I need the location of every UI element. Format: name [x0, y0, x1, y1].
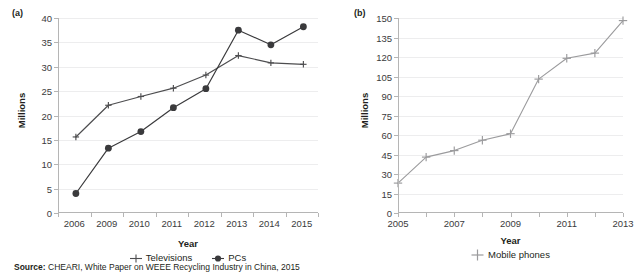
- data-point-marker[interactable]: [300, 61, 306, 67]
- x-tick-mark: [156, 213, 157, 217]
- x-tick-label: 2005: [387, 218, 408, 229]
- series-layer: [58, 18, 318, 213]
- legend-item-mobile-phones[interactable]: Mobile phones: [471, 249, 550, 261]
- x-tick-label: 2015: [291, 218, 312, 229]
- x-tick-mark: [398, 213, 399, 217]
- panel-b-y-axis-title: Millions: [359, 81, 370, 141]
- y-tick-label: 0: [387, 208, 392, 219]
- source-prefix: Source:: [14, 262, 46, 272]
- panel-a-plot-area: 0510152025303540200620092010201120122013…: [58, 18, 318, 213]
- x-tick-mark: [253, 213, 254, 217]
- data-point-marker[interactable]: [170, 104, 177, 111]
- y-tick-label: 30: [381, 169, 392, 180]
- x-tick-mark: [318, 213, 319, 217]
- y-tick-label: 90: [381, 91, 392, 102]
- x-tick-label: 2006: [64, 218, 85, 229]
- y-tick-label: 0: [47, 208, 52, 219]
- panel-b-y-axis-line: [398, 18, 399, 213]
- data-point-marker[interactable]: [506, 130, 514, 138]
- y-tick-label: 45: [381, 149, 392, 160]
- x-tick-mark: [58, 213, 59, 217]
- panel-a: (a) Millions 051015202530354020062009201…: [0, 0, 340, 271]
- panel-a-letter: (a): [12, 8, 23, 18]
- x-tick-label: 2011: [557, 218, 577, 229]
- data-point-marker[interactable]: [267, 41, 274, 48]
- x-tick-label: 2013: [612, 218, 633, 229]
- panel-b-x-axis-line: [398, 212, 623, 213]
- x-tick-mark: [482, 213, 483, 217]
- x-tick-label: 2007: [444, 218, 465, 229]
- panel-a-y-axis-line: [58, 18, 59, 213]
- x-tick-mark: [511, 213, 512, 217]
- data-point-marker[interactable]: [203, 72, 209, 78]
- x-tick-label: 2011: [162, 218, 182, 229]
- x-tick-label: 2009: [96, 218, 117, 229]
- data-point-marker[interactable]: [563, 54, 571, 62]
- y-tick-label: 105: [376, 71, 392, 82]
- y-tick-label: 10: [41, 159, 52, 170]
- x-tick-mark: [623, 213, 624, 217]
- y-tick-label: 15: [381, 188, 392, 199]
- y-tick-label: 25: [41, 86, 52, 97]
- x-tick-mark: [567, 213, 568, 217]
- x-tick-label: 2014: [259, 218, 280, 229]
- x-tick-mark: [123, 213, 124, 217]
- panel-a-x-axis-line: [58, 212, 318, 213]
- data-point-marker[interactable]: [235, 52, 241, 58]
- panel-a-x-axis-title: Year: [58, 238, 318, 249]
- series-line-mobile-phones: [398, 21, 623, 184]
- panel-b-letter: (b): [354, 8, 366, 18]
- y-tick-label: 120: [376, 52, 392, 63]
- x-tick-mark: [426, 213, 427, 217]
- y-tick-label: 40: [41, 13, 52, 24]
- panel-b-plot-area: 0153045607590105120135150200520072009201…: [398, 18, 623, 213]
- x-tick-label: 2010: [129, 218, 150, 229]
- x-tick-label: 2013: [226, 218, 247, 229]
- panel-a-y-axis-title: Millions: [16, 81, 27, 141]
- y-tick-label: 75: [381, 110, 392, 121]
- panel-b: (b) Millions 015304560759010512013515020…: [340, 0, 635, 271]
- data-point-marker[interactable]: [137, 128, 144, 135]
- data-point-marker[interactable]: [170, 85, 176, 91]
- source-text: CHEARI, White Paper on WEEE Recycling In…: [48, 262, 300, 272]
- y-tick-label: 135: [376, 32, 392, 43]
- y-tick-label: 20: [41, 110, 52, 121]
- series-layer: [398, 18, 623, 213]
- data-point-marker[interactable]: [534, 75, 542, 83]
- legend-label-mobile-phones: Mobile phones: [488, 250, 550, 260]
- y-tick-label: 35: [41, 37, 52, 48]
- x-tick-mark: [221, 213, 222, 217]
- series-line-televisions: [76, 56, 304, 137]
- source-note: Source: CHEARI, White Paper on WEEE Recy…: [14, 262, 300, 272]
- data-point-marker[interactable]: [268, 60, 274, 66]
- panel-b-x-axis-title: Year: [398, 235, 623, 246]
- x-tick-mark: [454, 213, 455, 217]
- data-point-marker[interactable]: [235, 27, 242, 34]
- data-point-marker[interactable]: [138, 93, 144, 99]
- data-point-marker[interactable]: [450, 146, 458, 154]
- y-tick-label: 60: [381, 130, 392, 141]
- x-tick-mark: [188, 213, 189, 217]
- data-point-marker[interactable]: [202, 85, 209, 92]
- x-tick-mark: [539, 213, 540, 217]
- x-tick-mark: [286, 213, 287, 217]
- y-tick-label: 5: [47, 183, 52, 194]
- series-line-pcs: [76, 27, 304, 194]
- cross-marker-icon: [471, 249, 484, 261]
- data-point-marker[interactable]: [105, 145, 112, 152]
- x-tick-label: 2009: [500, 218, 521, 229]
- y-tick-label: 30: [41, 61, 52, 72]
- x-tick-mark: [595, 213, 596, 217]
- data-point-marker[interactable]: [72, 190, 79, 197]
- panel-b-legend: Mobile phones: [398, 249, 623, 261]
- y-tick-label: 15: [41, 134, 52, 145]
- x-tick-mark: [91, 213, 92, 217]
- x-tick-label: 2012: [194, 218, 215, 229]
- data-point-marker[interactable]: [300, 23, 307, 30]
- data-point-marker[interactable]: [478, 136, 486, 144]
- y-tick-label: 150: [376, 13, 392, 24]
